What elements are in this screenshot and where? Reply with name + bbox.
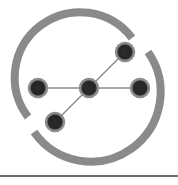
node-right-icon	[131, 79, 149, 97]
node-top-right-icon	[116, 43, 134, 61]
node-left-icon	[29, 79, 47, 97]
nodes	[29, 43, 149, 131]
network-graph-logo-icon	[0, 0, 178, 172]
divider	[0, 175, 178, 177]
node-center-icon	[80, 79, 98, 97]
node-bottom-left-icon	[46, 113, 64, 131]
